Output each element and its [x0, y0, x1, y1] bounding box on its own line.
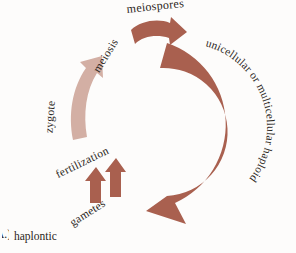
haploid-phase-arc — [146, 43, 228, 224]
label-zygote: zygote — [44, 100, 58, 133]
caption-text: haplontic — [14, 230, 57, 242]
caption-enumerator: A.) — [2, 228, 9, 240]
gametes-arrow-lower — [85, 167, 106, 203]
gametes-arrow-upper — [105, 158, 126, 197]
meiospores-arrow — [131, 17, 187, 45]
haplontic-life-cycle-diagram: unicellular or multicellular haploid mei… — [0, 0, 296, 253]
phase-label-haploid: unicellular or multicellular haploid — [205, 36, 277, 185]
figure-caption: A.)haplontic — [2, 228, 57, 242]
